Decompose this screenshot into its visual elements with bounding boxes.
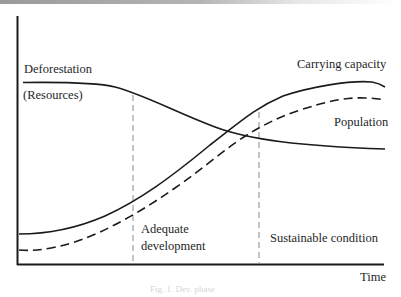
sustainable-condition-label: Sustainable condition	[270, 231, 378, 245]
population-label: Population	[334, 115, 388, 129]
x-axis-label: Time	[360, 270, 386, 284]
figure-caption: Fig. 1. Dev. phase	[150, 284, 215, 294]
carrying-capacity-label: Carrying capacity	[297, 57, 386, 71]
deforestation-label: Deforestation	[24, 62, 92, 76]
resources-label: (Resources)	[23, 88, 83, 102]
adequate-development-label-line2: development	[141, 239, 206, 253]
adequate-development-label-line1: Adequate	[141, 222, 189, 236]
carrying-capacity-curve	[19, 82, 385, 234]
